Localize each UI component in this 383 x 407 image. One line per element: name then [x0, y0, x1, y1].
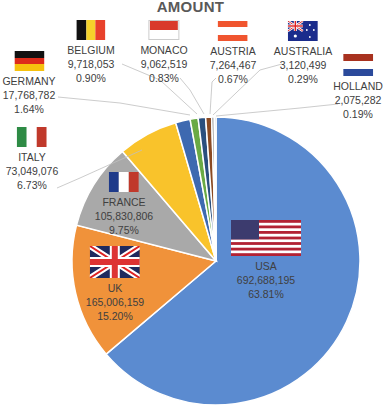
label-name: HOLLAND [333, 79, 383, 93]
label-monaco: MONACO 9,062,519 0.83% [140, 20, 187, 85]
uk-flag-icon [90, 246, 140, 278]
leader-line-holland [216, 104, 338, 116]
france-flag-icon [109, 172, 139, 192]
label-percent: 15.20% [86, 309, 144, 323]
label-germany: GERMANY 17,768,782 1.64% [2, 51, 55, 116]
label-name: AUSTRIA [210, 44, 257, 58]
label-name: AUSTRALIA [274, 44, 332, 58]
label-belgium: BELGIUM 9,718,053 0.90% [67, 20, 114, 85]
label-name: ITALY [6, 150, 59, 164]
italy-flag-icon [17, 127, 47, 147]
label-value: 2,075,282 [333, 93, 383, 107]
label-name: MONACO [140, 43, 187, 57]
label-percent: 0.83% [140, 71, 187, 85]
label-percent: 63.81% [231, 287, 301, 301]
label-austria: AUSTRIA 7,264,467 0.67% [210, 21, 257, 86]
label-percent: 9.75% [95, 223, 153, 237]
label-percent: 1.64% [2, 102, 55, 116]
austria-flag-icon [218, 21, 248, 41]
label-value: 9,062,519 [140, 57, 187, 71]
label-percent: 6.73% [6, 178, 59, 192]
label-italy: ITALY 73,049,076 6.73% [6, 127, 59, 192]
belgium-flag-icon [76, 20, 105, 40]
label-usa: USA 692,688,195 63.81% [231, 220, 301, 301]
label-uk: UK 165,006,159 15.20% [86, 246, 144, 323]
label-value: 105,830,806 [95, 209, 153, 223]
label-value: 9,718,053 [67, 57, 114, 71]
label-value: 17,768,782 [2, 88, 55, 102]
label-name: GERMANY [2, 74, 55, 88]
label-name: BELGIUM [67, 43, 114, 57]
label-holland: HOLLAND 2,075,282 0.19% [333, 54, 383, 121]
usa-flag-icon [231, 220, 301, 256]
label-name: USA [231, 259, 301, 273]
label-percent: 0.67% [210, 72, 257, 86]
holland-flag-icon [343, 54, 373, 76]
label-value: 7,264,467 [210, 58, 257, 72]
label-value: 692,688,195 [231, 273, 301, 287]
australia-flag-icon [288, 21, 318, 41]
label-name: FRANCE [95, 195, 153, 209]
monaco-flag-icon [149, 20, 180, 40]
label-percent: 0.90% [67, 71, 114, 85]
leader-line-germany [58, 97, 190, 115]
label-value: 73,049,076 [6, 164, 59, 178]
label-france: FRANCE 105,830,806 9.75% [95, 172, 153, 237]
label-percent: 0.19% [333, 107, 383, 121]
label-value: 3,120,499 [274, 58, 332, 72]
label-value: 165,006,159 [86, 295, 144, 309]
label-percent: 0.29% [274, 72, 332, 86]
germany-flag-icon [14, 51, 44, 71]
label-australia: AUSTRALIA 3,120,499 0.29% [274, 21, 332, 86]
label-name: UK [86, 281, 144, 295]
